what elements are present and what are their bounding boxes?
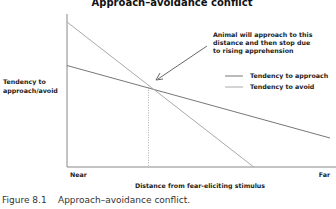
figure-number: Figure 8.1 (2, 195, 47, 205)
chart: Approach–avoidance conflict Animal will … (0, 0, 336, 209)
chart-title: Approach–avoidance conflict (92, 0, 253, 8)
x-axis-label: Distance from fear-eliciting stimulus (135, 182, 265, 190)
x-tick-near: Near (70, 171, 88, 178)
y-axis-label-line-2: approach/avoid (3, 87, 58, 95)
annotation-line-3: to rising apprehension (213, 47, 293, 55)
y-axis-label-line-1: Tendency to (3, 78, 47, 86)
annotation-line-1: Animal will approach to this (213, 31, 313, 39)
legend-label-avoid: Tendency to avoid (250, 83, 314, 91)
x-tick-far: Far (319, 171, 331, 178)
figure-caption: Approach–avoidance conflict. (58, 195, 190, 205)
annotation-arrow (156, 46, 207, 80)
legend-label-approach: Tendency to approach (250, 72, 328, 80)
annotation-line-2: distance and then stop due (213, 39, 310, 47)
legend: Tendency to approach Tendency to avoid (225, 72, 328, 91)
